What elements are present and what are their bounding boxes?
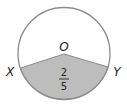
point-label-y: Y [113, 65, 122, 79]
fraction-denominator: 5 [61, 81, 67, 92]
center-label-o: O [59, 40, 68, 54]
fraction-numerator: 2 [61, 67, 67, 78]
circle-diagram: O X Y 2 5 [0, 0, 127, 107]
point-label-x: X [5, 65, 15, 79]
